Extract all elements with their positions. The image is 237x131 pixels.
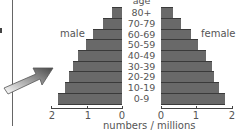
age-label: 20-29 [122,72,161,82]
age-label: 80+ [122,8,161,18]
age-label: 70-79 [122,19,161,29]
axis-tick [122,106,123,109]
axis-tick [161,106,162,109]
female-bar-0-9 [161,93,225,105]
age-label: 10-19 [122,83,161,93]
age-label: 40-49 [122,51,161,61]
axis-tick [232,106,233,109]
male-bar-0-9 [58,93,122,105]
axis-tick [51,106,52,109]
age-label: 0-9 [122,94,161,104]
tick-label: 2 [229,111,235,121]
female-label: female [201,29,235,39]
tick-label: 2 [49,111,55,121]
tick-label: 1 [85,111,91,121]
female-x-axis [161,108,233,109]
male-label: male [60,29,85,39]
axis-tick [87,106,88,109]
x-axis-title: numbers / millions [103,121,196,131]
population-pyramid-chart: age male female 80+ 70-79 60-69 50-59 40… [0,0,237,131]
age-axis-title: age [122,0,161,6]
age-label: 50-59 [122,40,161,50]
axis-tick [196,106,197,109]
